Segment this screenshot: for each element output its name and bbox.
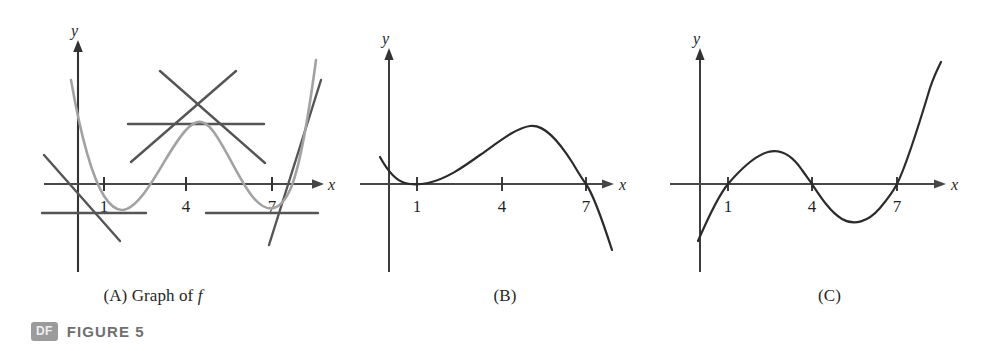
- panel-c-y-axis-label: y: [691, 30, 701, 48]
- panel-b-x-axis-label: x: [618, 176, 626, 193]
- panel-b-curve: [380, 126, 612, 250]
- panel-c-plot: y x 1 4 7: [660, 0, 999, 286]
- panel-c-caption: (C): [660, 286, 999, 306]
- panel-c-x-axis: [670, 179, 946, 188]
- panel-b-plot: y x 1 4 7: [350, 0, 660, 286]
- panel-b-y-axis-label: y: [380, 30, 390, 48]
- panel-c-graph: y x 1 4 7 (C): [660, 0, 999, 351]
- panel-b-tick-label-4: 4: [498, 197, 507, 216]
- panel-a-tangent-lines: [42, 71, 321, 245]
- panel-a-x-axis: [44, 179, 324, 189]
- panel-c-curve: [698, 62, 941, 241]
- panel-c-x-axis-label: x: [950, 176, 958, 193]
- panel-c-tick-label-7: 7: [893, 197, 902, 216]
- panel-b-caption-prefix: (B): [494, 286, 517, 305]
- panel-b-graph: y x 1 4 7 (B): [350, 0, 660, 351]
- panel-a-graph-of-f: y x 1 4 7: [0, 0, 350, 351]
- panel-c-tick-label-4: 4: [808, 197, 817, 216]
- panel-a-tick-label-4: 4: [182, 197, 191, 216]
- panel-a-x-axis-label: x: [327, 176, 335, 193]
- figure-label-bar: DF FIGURE 5: [31, 322, 145, 341]
- panel-a-tangent-negative-slope-mid: [160, 71, 265, 163]
- figure-container: y x 1 4 7: [0, 0, 999, 351]
- panel-a-caption-prefix: (A) Graph of: [103, 286, 197, 305]
- panel-a-curve-f: [71, 60, 316, 210]
- panel-a-tangent-negative-slope-left: [44, 155, 120, 241]
- panel-b-y-axis: [384, 48, 393, 272]
- figure-number-label: FIGURE 5: [67, 323, 145, 340]
- panel-a-caption-function: f: [198, 286, 203, 305]
- panel-b-tick-label-1: 1: [413, 197, 422, 216]
- panel-c-tick-label-1: 1: [724, 197, 733, 216]
- panel-a-plot: y x 1 4 7: [0, 0, 350, 286]
- panel-b-caption: (B): [350, 286, 660, 306]
- panel-a-tangent-positive-slope-right: [269, 80, 321, 245]
- panel-a-caption: (A) Graph of f: [0, 286, 328, 306]
- df-badge: DF: [31, 322, 58, 341]
- panel-a-y-axis-label: y: [69, 22, 79, 40]
- panel-a-y-axis: [73, 40, 83, 272]
- panel-c-caption-prefix: (C): [818, 286, 841, 305]
- panel-a-tangent-positive-slope-mid: [131, 71, 236, 162]
- panel-b-tick-label-7: 7: [582, 197, 591, 216]
